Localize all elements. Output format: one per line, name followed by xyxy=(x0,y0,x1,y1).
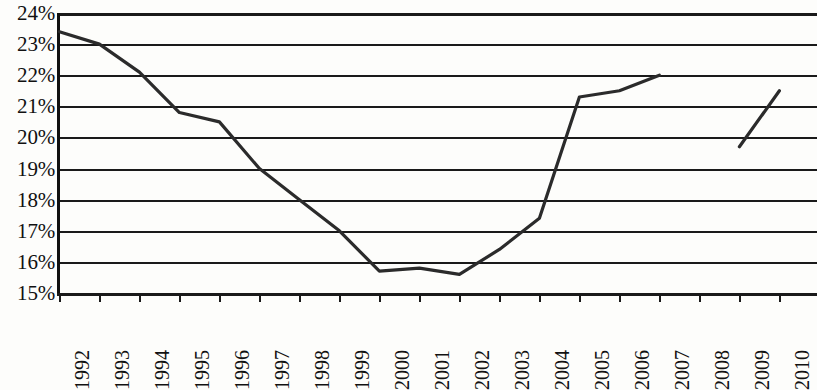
data-series-layer xyxy=(57,13,817,293)
y-axis-tick-label: 15% xyxy=(17,283,55,304)
x-axis-tick-label: 1999 xyxy=(352,350,372,390)
x-axis-tick-label: 1994 xyxy=(152,350,172,390)
x-axis-tick xyxy=(739,293,741,302)
x-axis-tick-label: 2005 xyxy=(592,350,612,390)
x-axis-tick xyxy=(59,293,61,302)
series-line xyxy=(739,91,779,147)
x-axis-tick-label: 2009 xyxy=(752,350,772,390)
plot-area xyxy=(57,13,817,293)
y-axis-tick-label: 24% xyxy=(17,3,55,24)
x-axis-tick-label: 1998 xyxy=(312,350,332,390)
x-axis-tick xyxy=(219,293,221,302)
y-axis-tick-label: 22% xyxy=(17,65,55,86)
x-axis-tick xyxy=(379,293,381,302)
x-axis-tick xyxy=(179,293,181,302)
y-axis-tick-label: 19% xyxy=(17,158,55,179)
x-axis-tick-label: 1992 xyxy=(72,350,92,390)
x-axis-tick-label: 2010 xyxy=(792,350,812,390)
x-axis-tick xyxy=(659,293,661,302)
x-axis-tick-label: 2008 xyxy=(712,350,732,390)
x-axis-tick-label: 2002 xyxy=(472,350,492,390)
x-axis-tick xyxy=(779,293,781,302)
x-axis-tick xyxy=(99,293,101,302)
x-axis-tick-label: 1996 xyxy=(232,350,252,390)
y-axis-tick-label: 23% xyxy=(17,34,55,55)
x-axis-tick xyxy=(339,293,341,302)
series-line xyxy=(59,32,659,275)
x-axis-tick-label: 1995 xyxy=(192,350,212,390)
x-axis-tick-label: 2004 xyxy=(552,350,572,390)
x-axis-tick xyxy=(579,293,581,302)
y-axis-tick-label: 21% xyxy=(17,96,55,117)
x-axis-tick xyxy=(259,293,261,302)
x-axis-tick xyxy=(459,293,461,302)
x-axis: 1992199319941995199619971998199920002001… xyxy=(57,302,817,353)
y-axis-tick-label: 16% xyxy=(17,251,55,272)
x-axis-tick xyxy=(539,293,541,302)
x-axis-tick xyxy=(699,293,701,302)
y-axis-tick-label: 20% xyxy=(17,127,55,148)
x-axis-tick-label: 2007 xyxy=(672,350,692,390)
x-axis-tick xyxy=(419,293,421,302)
x-axis-tick xyxy=(299,293,301,302)
x-axis-tick-label: 2006 xyxy=(632,350,652,390)
x-axis-tick-label: 1993 xyxy=(112,350,132,390)
x-axis-tick xyxy=(619,293,621,302)
y-axis: 24%23%22%21%20%19%18%17%16%15% xyxy=(0,0,55,353)
x-axis-tick xyxy=(499,293,501,302)
x-axis-tick-label: 1997 xyxy=(272,350,292,390)
x-axis-tick-label: 2001 xyxy=(432,350,452,390)
x-axis-tick-label: 2003 xyxy=(512,350,532,390)
x-axis-tick-label: 2000 xyxy=(392,350,412,390)
y-axis-tick-label: 17% xyxy=(17,220,55,241)
y-axis-tick-label: 18% xyxy=(17,189,55,210)
x-axis-tick xyxy=(139,293,141,302)
